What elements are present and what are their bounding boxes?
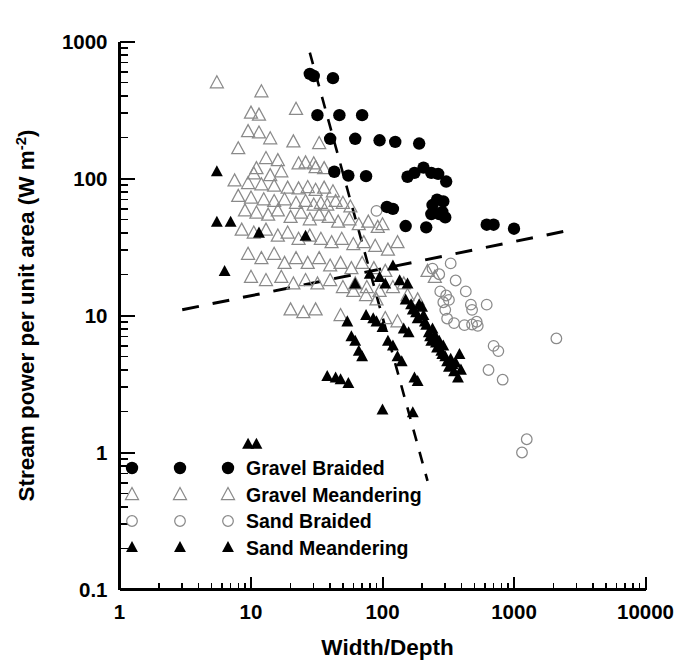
data-point: [244, 270, 257, 282]
legend-entry[interactable]: Sand Braided: [127, 510, 372, 532]
legend-marker: [222, 541, 234, 552]
data-point: [487, 219, 499, 231]
data-point: [349, 278, 361, 289]
data-point: [210, 76, 223, 88]
data-point: [309, 303, 322, 315]
x-axis-title: Width/Depth: [321, 635, 453, 660]
chart-canvas: 1101001000100000.11101001000Width/DepthS…: [0, 0, 681, 669]
data-point: [257, 193, 270, 205]
data-point: [481, 299, 492, 310]
data-point: [324, 133, 336, 145]
data-point: [379, 312, 392, 324]
data-point: [314, 232, 327, 244]
data-point: [521, 434, 532, 445]
data-point: [255, 252, 268, 264]
x-tick-label: 1: [114, 600, 125, 623]
data-point: [259, 151, 272, 163]
y-tick-label: 1: [96, 441, 107, 464]
legend-entry[interactable]: Gravel Meandering: [125, 484, 421, 506]
data-point: [311, 109, 323, 121]
data-point: [259, 274, 272, 286]
legend-marker: [126, 541, 138, 552]
legend-marker: [174, 541, 186, 552]
data-point: [275, 165, 288, 177]
data-point: [232, 189, 245, 201]
data-point: [413, 137, 425, 149]
stream-power-scatter-figure: 1101001000100000.11101001000Width/DepthS…: [0, 0, 681, 669]
data-point: [445, 258, 456, 269]
data-point: [326, 185, 339, 197]
data-point: [399, 220, 411, 232]
data-point: [268, 247, 281, 259]
data-point: [321, 370, 333, 381]
legend-marker: [127, 516, 138, 527]
data-point: [454, 348, 466, 359]
data-point: [275, 270, 288, 282]
data-point: [450, 275, 461, 286]
data-point: [508, 223, 520, 235]
data-point: [219, 265, 231, 276]
data-point: [211, 165, 223, 176]
data-point: [244, 191, 257, 203]
data-point: [281, 181, 294, 193]
legend-entry[interactable]: Sand Meandering: [126, 537, 408, 559]
data-point: [483, 365, 494, 376]
data-point: [287, 135, 300, 147]
legend-marker: [174, 462, 186, 474]
legend-label: Sand Braided: [246, 510, 372, 532]
data-point: [437, 195, 449, 207]
series-gravel-meandering: [210, 76, 441, 327]
data-point: [335, 232, 348, 244]
y-tick-label: 1000: [62, 30, 108, 53]
data-point: [297, 306, 310, 318]
data-point: [420, 221, 432, 233]
data-point: [362, 215, 375, 227]
data-point: [371, 206, 382, 217]
data-point: [327, 72, 339, 84]
data-point: [324, 259, 337, 271]
data-point: [301, 256, 314, 268]
x-tick-label: 10: [240, 600, 263, 623]
data-point: [308, 70, 320, 82]
data-point: [235, 223, 248, 235]
data-point: [387, 203, 399, 215]
data-point: [255, 85, 268, 97]
legend-marker: [175, 516, 186, 527]
legend-marker: [173, 488, 186, 500]
data-point: [360, 170, 372, 182]
data-point: [211, 216, 223, 227]
data-point: [356, 109, 368, 121]
data-point: [349, 133, 361, 145]
legend-marker: [126, 462, 138, 474]
data-point: [313, 137, 326, 149]
legend: Gravel BraidedGravel MeanderingSand Brai…: [125, 457, 421, 559]
data-point: [250, 438, 262, 449]
legend-label: Gravel Braided: [246, 457, 385, 479]
x-tick-label: 1000: [491, 600, 537, 623]
data-point: [328, 166, 340, 178]
data-point: [292, 157, 305, 169]
data-point: [417, 161, 429, 173]
legend-label: Gravel Meandering: [246, 484, 422, 506]
legend-marker: [221, 488, 234, 500]
x-tick-label: 100: [365, 600, 399, 623]
data-point: [300, 230, 312, 241]
data-point: [238, 204, 251, 216]
y-tick-label: 100: [73, 167, 107, 190]
y-axis-title: Stream power per unit area (W m-2): [12, 129, 39, 501]
data-point: [373, 134, 385, 146]
data-point: [242, 125, 255, 137]
data-point: [389, 136, 401, 148]
y-tick-label: 0.1: [79, 578, 108, 601]
data-point: [391, 315, 404, 327]
data-point: [225, 216, 237, 227]
legend-marker: [222, 462, 234, 474]
data-point: [334, 256, 347, 268]
data-point: [357, 236, 370, 248]
data-point: [271, 204, 284, 216]
legend-entry[interactable]: Gravel Braided: [126, 457, 385, 479]
y-axis-title-text: Stream power per unit area (W m-2): [12, 129, 39, 501]
data-point: [290, 102, 303, 114]
data-point: [497, 374, 508, 385]
legend-label: Sand Meandering: [246, 537, 409, 559]
